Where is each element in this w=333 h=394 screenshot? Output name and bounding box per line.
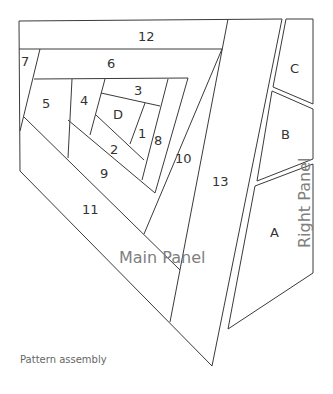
piece-label-6: 6 xyxy=(107,56,115,71)
piece-label-5: 5 xyxy=(42,96,50,111)
piece-label-c: C xyxy=(290,61,299,76)
piece-label-12: 12 xyxy=(138,29,155,44)
piece-label-9: 9 xyxy=(100,166,108,181)
seam-3 xyxy=(101,93,160,106)
pattern-diagram: 12 7 6 5 4 3 D 1 8 2 9 10 13 11 C B A Ma… xyxy=(0,0,333,394)
caption: Pattern assembly xyxy=(20,354,107,365)
piece-label-8: 8 xyxy=(154,133,162,148)
piece-label-b: B xyxy=(281,127,290,142)
piece-label-11: 11 xyxy=(82,202,99,217)
piece-label-3: 3 xyxy=(134,83,142,98)
piece-label-2: 2 xyxy=(110,142,118,157)
piece-label-7: 7 xyxy=(21,54,29,69)
piece-label-4: 4 xyxy=(80,93,88,108)
piece-label-13: 13 xyxy=(212,174,229,189)
piece-label-1: 1 xyxy=(138,126,146,141)
seam-6 xyxy=(34,78,188,79)
main-panel-label: Main Panel xyxy=(119,248,205,267)
piece-label-d: D xyxy=(113,107,123,122)
seam-13 xyxy=(170,19,228,322)
seam-5 xyxy=(68,79,72,158)
piece-label-a: A xyxy=(270,225,279,240)
main-panel-outline xyxy=(19,19,282,366)
seam-4 xyxy=(90,79,105,135)
piece-label-10: 10 xyxy=(175,151,192,166)
right-panel-label: Right Panel xyxy=(295,158,314,248)
